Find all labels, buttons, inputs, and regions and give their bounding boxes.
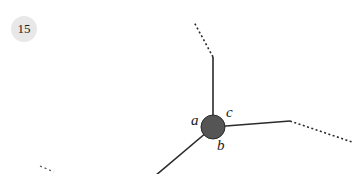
edge-right-dotted <box>290 121 352 142</box>
junction-diagram: a c b <box>0 0 361 174</box>
edge-up-dotted <box>194 22 213 57</box>
edge-fragment-dotted <box>40 166 54 172</box>
label-b: b <box>217 137 225 153</box>
label-c: c <box>226 104 233 120</box>
vertex-node <box>201 115 225 139</box>
label-a: a <box>191 112 199 128</box>
